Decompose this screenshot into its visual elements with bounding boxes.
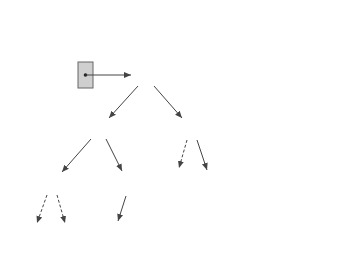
- edge-50-60: [154, 86, 182, 118]
- edge-50-40: [109, 86, 138, 118]
- edge-40-45: [106, 139, 122, 171]
- tree-edges: [37, 86, 207, 223]
- edge-29-right-empty: [57, 195, 65, 223]
- edge-40-29: [62, 139, 91, 172]
- edge-60-70: [197, 140, 207, 170]
- diagram-canvas: [0, 0, 348, 259]
- edge-45-42: [118, 196, 126, 221]
- edge-29-left-empty: [37, 195, 47, 223]
- edge-60-empty: [179, 140, 187, 168]
